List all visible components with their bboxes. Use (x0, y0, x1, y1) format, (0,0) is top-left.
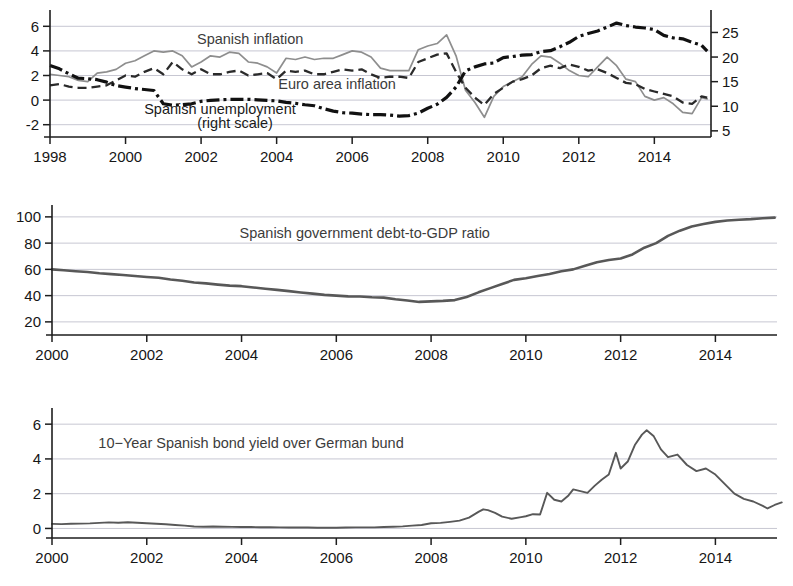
y-tick-label: 20 (24, 313, 41, 330)
y-tick-label: 40 (24, 287, 41, 304)
y-tick-label: 0 (33, 520, 41, 537)
y-tick-label: 4 (31, 42, 39, 59)
x-tick-label: 2002 (184, 148, 217, 165)
y2-tick-label: 25 (722, 24, 739, 41)
panel-2-annotations: Spanish government debt-to-GDP ratio (240, 225, 490, 241)
panel-1-annotations: Spanish inflationEuro area inflationSpan… (144, 31, 396, 131)
x-tick-label: 2006 (320, 549, 353, 566)
y-tick-label: 60 (24, 261, 41, 278)
economic-indicators-figure: -202465101520251998200020022004200620082… (0, 0, 793, 586)
x-tick-label: 2008 (414, 549, 447, 566)
series-annotation: 10−Year Spanish bond yield over German b… (98, 435, 403, 451)
x-tick-label: 2004 (260, 148, 293, 165)
series-annotation: (right scale) (197, 115, 273, 131)
y-tick-label: -2 (26, 116, 39, 133)
y2-tick-label: 10 (722, 98, 739, 115)
y-tick-label: 4 (33, 450, 41, 467)
series-annotation: Spanish government debt-to-GDP ratio (240, 225, 490, 241)
series-annotation: Euro area inflation (278, 76, 396, 92)
y-tick-label: 2 (33, 485, 41, 502)
panel-bond-spread: 024620002002200420062008201020122014 10−… (0, 398, 793, 586)
panel-debt-to-gdp: 2040608010020002002200420062008201020122… (0, 195, 793, 380)
panel-3-annotations: 10−Year Spanish bond yield over German b… (98, 435, 403, 451)
y2-tick-label: 5 (722, 122, 730, 139)
panel-3-svg: 024620002002200420062008201020122014 10−… (0, 398, 793, 586)
x-tick-label: 2012 (562, 148, 595, 165)
y-tick-label: 2 (31, 67, 39, 84)
x-tick-label: 2012 (604, 549, 637, 566)
y-tick-label: 6 (33, 416, 41, 433)
y-tick-label: 80 (24, 235, 41, 252)
x-tick-label: 2014 (699, 346, 732, 363)
x-tick-label: 2000 (35, 549, 68, 566)
panel-2-svg: 2040608010020002002200420062008201020122… (0, 195, 793, 380)
y-tick-label: 6 (31, 18, 39, 35)
series-annotation: Spanish inflation (197, 31, 303, 47)
x-tick-label: 2014 (699, 549, 732, 566)
y2-tick-label: 20 (722, 49, 739, 66)
x-tick-label: 2010 (487, 148, 520, 165)
panel-1-svg: -202465101520251998200020022004200620082… (0, 0, 793, 185)
x-tick-label: 2008 (411, 148, 444, 165)
x-tick-label: 2014 (638, 148, 671, 165)
x-tick-label: 2010 (509, 346, 542, 363)
x-tick-label: 2004 (225, 549, 258, 566)
x-tick-label: 2006 (320, 346, 353, 363)
x-tick-label: 2000 (109, 148, 142, 165)
y2-tick-label: 15 (722, 73, 739, 90)
x-tick-label: 2010 (509, 549, 542, 566)
x-tick-label: 2002 (130, 549, 163, 566)
x-tick-label: 2002 (130, 346, 163, 363)
x-tick-label: 2012 (604, 346, 637, 363)
y-tick-label: 100 (16, 208, 41, 225)
x-tick-label: 1998 (33, 148, 66, 165)
x-tick-label: 2008 (414, 346, 447, 363)
panel-inflation-unemployment: -202465101520251998200020022004200620082… (0, 0, 793, 185)
y-tick-label: 0 (31, 92, 39, 109)
x-tick-label: 2004 (225, 346, 258, 363)
x-tick-label: 2000 (35, 346, 68, 363)
x-tick-label: 2006 (335, 148, 368, 165)
